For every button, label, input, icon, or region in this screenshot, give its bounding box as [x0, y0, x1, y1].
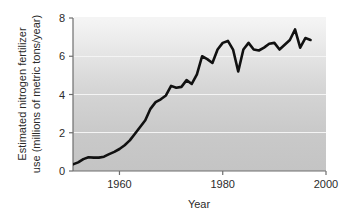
x-axis-ticks — [119, 171, 326, 175]
y-tick-label: 6 — [59, 50, 65, 62]
y-axis-tick-labels: 02468 — [59, 12, 65, 177]
x-tick-label: 2000 — [314, 178, 338, 190]
y-axis-title-line1: Estimated nitrogen fertilizer — [16, 27, 28, 161]
x-axis-tick-labels: 196019802000 — [107, 178, 338, 190]
y-tick-label: 0 — [59, 165, 65, 177]
x-axis-title: Year — [188, 198, 211, 210]
chart-figure: 02468 196019802000 Year Estimated nitrog… — [0, 0, 355, 216]
x-tick-label: 1960 — [107, 178, 131, 190]
y-tick-label: 4 — [59, 89, 65, 101]
y-axis-title-line2: use (millions of metric tons/year) — [30, 15, 42, 173]
y-tick-label: 2 — [59, 127, 65, 139]
x-tick-label: 1980 — [210, 178, 234, 190]
y-tick-label: 8 — [59, 12, 65, 24]
nitrogen-fertilizer-line-chart: 02468 196019802000 Year Estimated nitrog… — [0, 0, 355, 216]
